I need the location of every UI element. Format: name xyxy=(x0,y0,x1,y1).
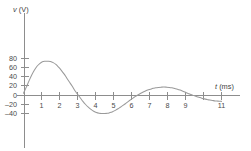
y-tick-label-80: 80 xyxy=(9,54,17,63)
y-axis-tick-labels: 80 60 40 20 0 –20 –40 xyxy=(5,54,17,118)
x-tick-label-7: 7 xyxy=(148,101,152,110)
x-tick-label-8: 8 xyxy=(166,101,170,110)
y-tick-label-neg40: –40 xyxy=(5,109,17,118)
x-axis-title-unit: (ms) xyxy=(219,82,234,91)
x-tick-label-2: 2 xyxy=(58,101,62,110)
x-tick-label-5: 5 xyxy=(112,101,116,110)
y-axis-title: v (V) xyxy=(13,5,29,14)
x-tick-label-4: 4 xyxy=(94,101,98,110)
voltage-waveform-curve xyxy=(24,61,222,113)
x-axis-title: t (ms) xyxy=(215,82,234,91)
chart-container: 80 60 40 20 0 –20 –40 1 2 3 4 5 6 7 8 9 … xyxy=(0,0,251,151)
y-tick-label-40: 40 xyxy=(9,72,17,81)
damped-sinusoid-plot: 80 60 40 20 0 –20 –40 1 2 3 4 5 6 7 8 9 … xyxy=(0,0,251,151)
x-tick-label-9: 9 xyxy=(184,101,188,110)
x-tick-label-3: 3 xyxy=(76,101,80,110)
x-axis-tick-labels: 1 2 3 4 5 6 7 8 9 11 xyxy=(40,101,226,110)
y-tick-label-neg20: –20 xyxy=(5,100,17,109)
y-tick-label-0: 0 xyxy=(13,91,17,100)
x-tick-label-6: 6 xyxy=(130,101,134,110)
y-tick-label-20: 20 xyxy=(9,81,17,90)
x-tick-label-1: 1 xyxy=(40,101,44,110)
y-tick-label-60: 60 xyxy=(9,63,17,72)
y-axis-title-unit: (V) xyxy=(19,5,29,14)
x-tick-label-11: 11 xyxy=(218,101,225,110)
